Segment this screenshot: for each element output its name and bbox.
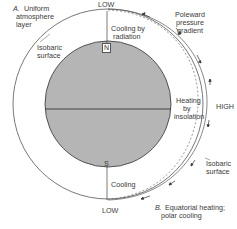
north-pole-label: N: [102, 43, 111, 53]
poleward-3: gradient: [177, 27, 203, 35]
high-label: HIGH: [216, 103, 234, 111]
heating-3: insolation: [174, 113, 204, 121]
south-pole-label: S: [104, 160, 109, 168]
cooling-radiation-2: radiation: [113, 33, 141, 41]
low-top-label: LOW: [98, 1, 114, 9]
isobaric-left-leader: [40, 34, 50, 42]
earth-globe: [45, 41, 171, 167]
panel-a-title-3: layer: [16, 21, 32, 29]
panel-b-title-2: polar cooling: [161, 212, 202, 220]
isobaric-left-2: surface: [37, 52, 61, 60]
isobaric-right-2: surface: [206, 168, 230, 176]
cooling-bottom: Cooling: [111, 181, 135, 189]
low-bottom-label: LOW: [102, 207, 118, 215]
